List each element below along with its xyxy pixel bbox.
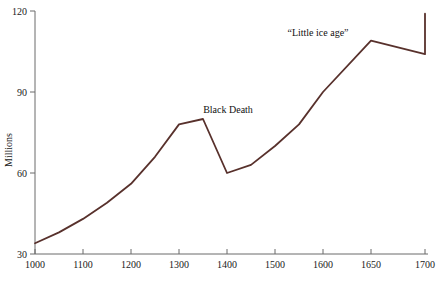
y-tick-label-120: 120 bbox=[12, 6, 27, 17]
x-tick-label-1100: 1100 bbox=[73, 259, 93, 270]
x-tick-label-1650: 1650 bbox=[361, 259, 381, 270]
x-tick-label-1200: 1200 bbox=[121, 259, 141, 270]
chart-canvas: 120 90 60 30 Millions 1000 1100 1200 130… bbox=[0, 0, 437, 284]
x-tick-label-1600: 1600 bbox=[313, 259, 333, 270]
y-axis-ticks: 120 90 60 30 bbox=[12, 6, 35, 260]
x-tick-label-1000: 1000 bbox=[25, 259, 45, 270]
x-tick-label-1500: 1500 bbox=[265, 259, 285, 270]
x-tick-label-1300: 1300 bbox=[169, 259, 189, 270]
y-axis-title: Millions bbox=[3, 133, 14, 167]
annotation-little-ice-age: “Little ice age” bbox=[287, 27, 348, 38]
x-tick-label-1400: 1400 bbox=[217, 259, 237, 270]
x-tick-label-1700: 1700 bbox=[415, 259, 435, 270]
annotation-black-death: Black Death bbox=[203, 104, 253, 115]
population-line-chart: 120 90 60 30 Millions 1000 1100 1200 130… bbox=[0, 0, 437, 284]
x-axis-ticks: 1000 1100 1200 1300 1400 1500 1600 1650 … bbox=[25, 249, 435, 270]
population-series-line bbox=[35, 14, 425, 244]
y-tick-label-90: 90 bbox=[17, 87, 27, 98]
y-tick-label-60: 60 bbox=[17, 168, 27, 179]
